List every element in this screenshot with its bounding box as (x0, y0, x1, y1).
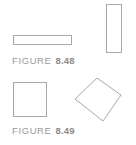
caption-label: FIGURE (12, 125, 52, 136)
caption-number: 8.49 (56, 125, 75, 136)
diamond (0, 0, 136, 145)
figure-caption: FIGURE8.49 (12, 126, 75, 136)
